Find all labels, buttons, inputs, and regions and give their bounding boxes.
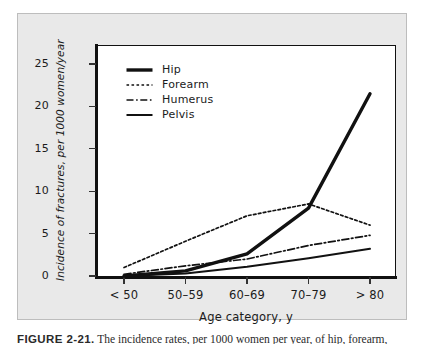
- x-tick-label: 60–69: [212, 288, 282, 302]
- y-tick-mark: [89, 106, 96, 107]
- y-tick-label: 0: [19, 270, 49, 281]
- y-axis-line: [95, 44, 98, 278]
- y-tick-mark: [89, 148, 96, 149]
- x-tick-mark: [185, 277, 186, 284]
- legend-swatch-humerus-icon: [126, 94, 153, 106]
- figure-root: 0510152025 < 5050–5960–6970–79> 80 Incid…: [0, 0, 423, 344]
- y-tick-mark: [89, 63, 96, 64]
- legend-swatch-hip-icon: [126, 64, 153, 76]
- figure-panel: 0510152025 < 5050–5960–6970–79> 80 Incid…: [17, 13, 407, 320]
- legend-swatch-forearm-icon: [126, 79, 153, 91]
- y-tick-label: 25: [19, 58, 49, 69]
- legend-item-humerus[interactable]: Humerus: [126, 92, 246, 107]
- caption-body: The incidence rates, per 1000 women per …: [97, 333, 387, 344]
- y-tick-label: 10: [19, 185, 49, 196]
- x-axis-title: Age category, y: [96, 310, 396, 324]
- legend-swatch-pelvis-icon: [126, 109, 153, 121]
- x-tick-mark: [123, 277, 124, 284]
- x-tick-label: 70–79: [274, 288, 344, 302]
- legend-label: Forearm: [162, 78, 209, 91]
- y-tick-mark: [89, 191, 96, 192]
- y-tick-mark: [89, 233, 96, 234]
- figure-caption: FIGURE 2-21. The incidence rates, per 10…: [17, 333, 407, 344]
- legend-label: Pelvis: [162, 108, 195, 121]
- legend-item-forearm[interactable]: Forearm: [126, 77, 246, 92]
- legend-item-hip[interactable]: Hip: [126, 62, 246, 77]
- x-tick-mark: [246, 277, 247, 284]
- y-tick-label: 15: [19, 143, 49, 154]
- x-tick-mark: [369, 277, 370, 284]
- y-tick-label: 20: [19, 100, 49, 111]
- y-tick-mark: [89, 275, 96, 276]
- x-tick-label: < 50: [89, 288, 159, 302]
- chart-legend: HipForearmHumerusPelvis: [126, 62, 246, 122]
- legend-label: Hip: [162, 63, 181, 76]
- x-tick-label: > 80: [335, 288, 405, 302]
- legend-item-pelvis[interactable]: Pelvis: [126, 107, 246, 122]
- caption-prefix: FIGURE 2-21.: [17, 333, 95, 344]
- x-tick-mark: [308, 277, 309, 284]
- y-axis-title: Incidence of fractures, per 1000 women/y…: [54, 51, 66, 281]
- x-tick-label: 50–59: [151, 288, 221, 302]
- y-tick-label: 5: [19, 228, 49, 239]
- legend-label: Humerus: [162, 93, 213, 106]
